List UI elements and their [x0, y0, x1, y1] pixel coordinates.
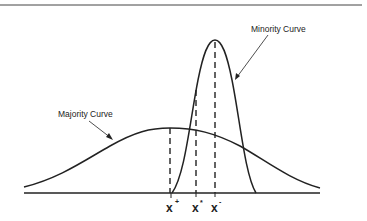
diagram-canvas: Minority Curve Majority Curve x + x * x …	[0, 0, 367, 221]
x-minus-label: x	[211, 201, 218, 215]
minority-arrow	[237, 35, 268, 77]
majority-curve	[24, 128, 320, 188]
x-minus-superscript: -	[219, 198, 222, 205]
majority-curve-label: Majority Curve	[58, 109, 113, 119]
x-plus-label: x	[166, 201, 173, 215]
majority-arrowhead	[106, 133, 113, 140]
x-star-label: x	[192, 201, 199, 215]
x-plus-superscript: +	[175, 198, 179, 205]
x-star-superscript: *	[200, 199, 203, 206]
minority-curve	[172, 40, 256, 193]
minority-curve-label: Minority Curve	[251, 24, 306, 34]
